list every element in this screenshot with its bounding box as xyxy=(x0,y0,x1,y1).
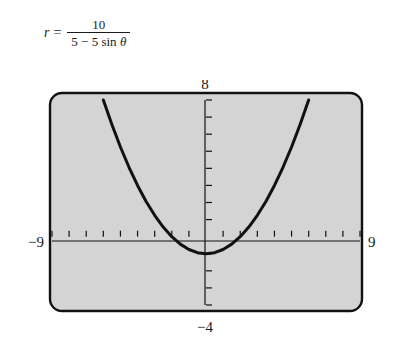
denominator-theta-variable: θ xyxy=(120,34,126,49)
equation-expression: r = 10 5 − 5 sin θ xyxy=(44,18,130,48)
ymax-label: 8 xyxy=(201,80,209,92)
equation-fraction: 10 5 − 5 sin θ xyxy=(67,18,130,48)
xmin-label: −9 xyxy=(28,234,44,250)
equation-denominator: 5 − 5 sin θ xyxy=(67,33,130,48)
denominator-constant: 5 xyxy=(71,34,78,49)
denominator-minus-sign: − xyxy=(81,34,88,49)
equation-equals-sign: = xyxy=(53,26,67,40)
xmax-label: 9 xyxy=(368,234,376,250)
denominator-coefficient: 5 xyxy=(92,34,99,49)
graph-figure: 8 −4 −9 9 xyxy=(0,80,401,339)
ymin-label: −4 xyxy=(197,319,213,335)
equation-left-side: r xyxy=(44,26,53,40)
calculator-screen-plot: 8 −4 −9 9 xyxy=(0,80,401,339)
denominator-sine-function: sin xyxy=(101,34,116,49)
equation-numerator: 10 xyxy=(84,18,113,32)
